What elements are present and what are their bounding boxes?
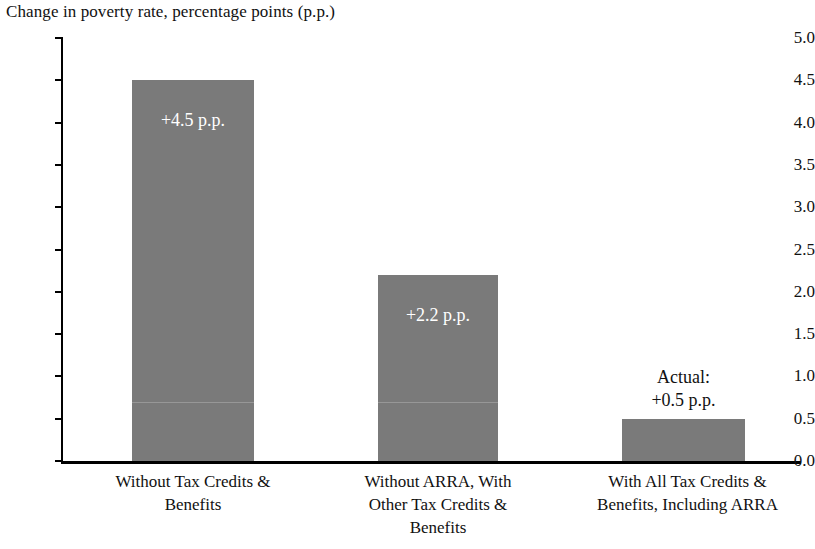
bar-data-label-prefix: Actual: — [592, 366, 775, 389]
bar[interactable] — [132, 80, 254, 461]
y-axis-tick-mark — [55, 206, 63, 208]
y-axis-tick-label: 5.0 — [763, 29, 815, 46]
chart-title: Change in poverty rate, percentage point… — [6, 2, 335, 22]
category-label-line: Without ARRA, With — [310, 470, 566, 493]
category-label-line: With All Tax Credits & — [560, 470, 815, 493]
y-axis-tick-label: 2.5 — [763, 241, 815, 258]
y-axis-tick-label: 1.5 — [763, 325, 815, 342]
category-label-line: Without Tax Credits & — [55, 470, 331, 493]
category-label-line: Other Tax Credits & — [310, 493, 566, 516]
y-axis-tick-mark — [55, 460, 63, 462]
y-axis-tick-mark — [55, 418, 63, 420]
bar-chart-figure: Change in poverty rate, percentage point… — [0, 0, 815, 549]
category-label-line: Benefits, Including ARRA — [560, 493, 815, 516]
y-axis-tick-mark — [55, 122, 63, 124]
bar-data-label-value: +0.5 p.p. — [592, 389, 775, 412]
bar-data-label: +2.2 p.p. — [378, 305, 498, 326]
y-axis-tick-label: 2.0 — [763, 283, 815, 300]
scan-seam — [378, 402, 498, 403]
y-axis-tick-mark — [55, 79, 63, 81]
bar[interactable] — [378, 275, 498, 461]
scan-seam — [132, 402, 254, 403]
x-axis-category-label: Without Tax Credits &Benefits — [55, 470, 331, 516]
y-axis-tick-label: 4.5 — [763, 71, 815, 88]
x-axis-category-label: With All Tax Credits &Benefits, Includin… — [560, 470, 815, 516]
y-axis-tick-mark — [55, 291, 63, 293]
y-axis-tick-label: 0.5 — [763, 410, 815, 427]
y-axis-tick-label: 4.0 — [763, 114, 815, 131]
category-label-line: Benefits — [310, 516, 566, 539]
y-axis-tick-mark — [55, 249, 63, 251]
y-axis-tick-label: 3.0 — [763, 198, 815, 215]
bar-data-label: Actual:+0.5 p.p. — [592, 366, 775, 412]
y-axis-tick-mark — [55, 164, 63, 166]
x-axis-line — [61, 461, 801, 464]
category-label-line: Benefits — [55, 493, 331, 516]
y-axis-tick-mark — [55, 37, 63, 39]
y-axis-tick-label: 0.0 — [763, 452, 815, 469]
y-axis-tick-label: 3.5 — [763, 156, 815, 173]
x-axis-category-label: Without ARRA, WithOther Tax Credits &Ben… — [310, 470, 566, 539]
y-axis-tick-mark — [55, 375, 63, 377]
bar-data-label: +4.5 p.p. — [132, 110, 254, 131]
y-axis-tick-mark — [55, 333, 63, 335]
bar[interactable] — [622, 419, 745, 461]
